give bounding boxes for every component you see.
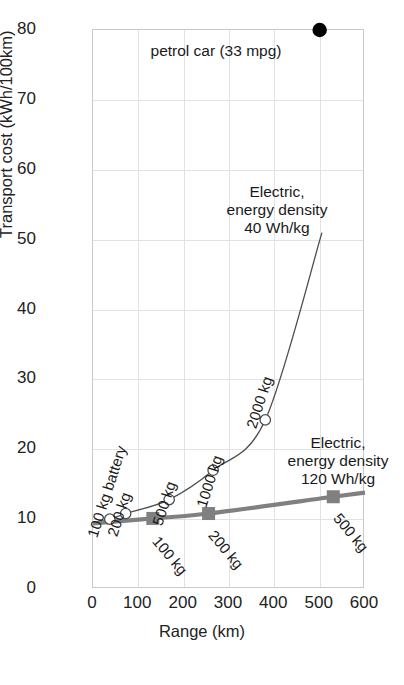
y-tick-0: 0 <box>0 579 36 596</box>
y-axis-label: Transport cost (kWh/100km) <box>0 30 16 238</box>
data-curves <box>93 30 365 589</box>
marker-petrol-car <box>312 23 326 37</box>
annotation-petrol-car: petrol car (33 mpg) <box>126 42 306 60</box>
x-tick-0: 0 <box>70 594 114 611</box>
annotation-electric-40-line3: 40 Wh/kg <box>222 219 332 237</box>
annotation-electric-40-line2: energy density <box>222 201 332 219</box>
x-tick-500: 500 <box>297 594 341 611</box>
plot-area <box>92 29 364 588</box>
y-tick-20: 20 <box>0 439 36 456</box>
marker-petrol-dot <box>312 23 326 37</box>
x-tick-300: 300 <box>206 594 250 611</box>
curve-electric-120 <box>93 493 365 524</box>
x-tick-200: 200 <box>161 594 205 611</box>
x-axis-label: Range (km) <box>0 622 404 641</box>
chart-figure: 80 70 60 50 40 30 20 10 0 Transport cost… <box>0 0 404 685</box>
marker-filled-square <box>327 490 340 503</box>
annotation-electric-120-line2: energy density <box>282 452 394 470</box>
annotation-electric-120: Electric, energy density 120 Wh/kg <box>282 434 394 488</box>
x-tick-600: 600 <box>342 594 386 611</box>
annotation-electric-40-line1: Electric, <box>222 183 332 201</box>
y-tick-40: 40 <box>0 300 36 317</box>
x-tick-100: 100 <box>115 594 159 611</box>
annotation-electric-40: Electric, energy density 40 Wh/kg <box>222 183 332 237</box>
x-tick-400: 400 <box>251 594 295 611</box>
annotation-electric-120-line1: Electric, <box>282 434 394 452</box>
annotation-electric-120-line3: 120 Wh/kg <box>282 470 394 488</box>
y-tick-30: 30 <box>0 369 36 386</box>
y-tick-10: 10 <box>0 509 36 526</box>
